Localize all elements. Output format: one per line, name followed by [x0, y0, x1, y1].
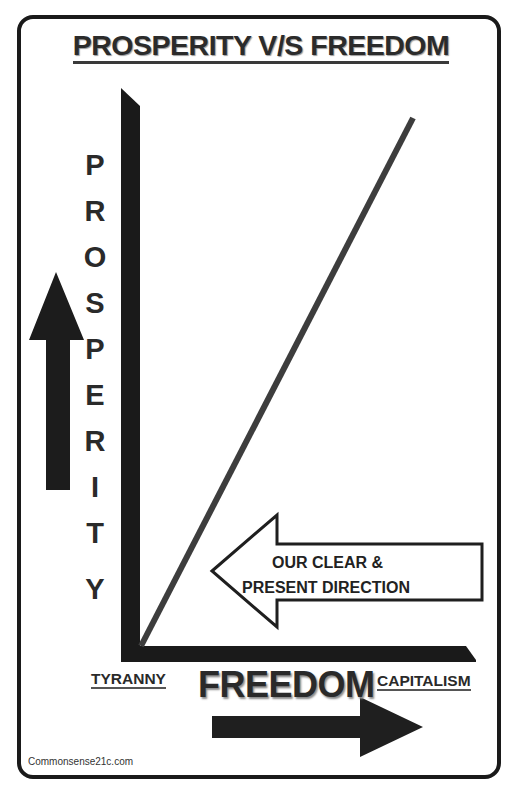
- y-axis-letter: Y: [80, 574, 110, 604]
- y-axis-letter: I: [80, 472, 110, 502]
- y-axis-letter: R: [80, 426, 110, 456]
- y-axis-letter: R: [80, 196, 110, 226]
- arrow-right-icon: [212, 697, 423, 757]
- arrow-up-icon: [29, 272, 84, 490]
- y-axis-letter: E: [80, 380, 110, 410]
- callout-line-2: PRESENT DIRECTION: [240, 575, 480, 600]
- footer-credit: Commonsense21c.com: [28, 756, 133, 767]
- y-axis-letter: O: [80, 242, 110, 272]
- y-axis-letter: T: [80, 518, 110, 548]
- y-axis-letter: S: [80, 288, 110, 318]
- x-axis-right-label: CAPITALISM: [377, 672, 471, 691]
- x-axis-bar: [121, 646, 476, 662]
- y-axis-letter: P: [80, 334, 110, 364]
- x-axis-label: FREEDOM: [198, 664, 375, 706]
- y-axis-bar: [121, 88, 140, 662]
- callout-line-1: OUR CLEAR &: [240, 550, 480, 575]
- x-axis-left-label: TYRANNY: [91, 670, 166, 689]
- direction-callout: OUR CLEAR & PRESENT DIRECTION: [240, 550, 480, 600]
- y-axis-letter: P: [80, 150, 110, 180]
